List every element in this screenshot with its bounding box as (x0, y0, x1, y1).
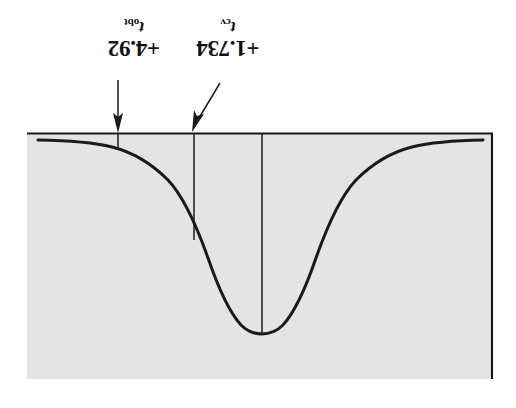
label-t-cv: +1.734 tcv (180, 18, 276, 61)
label-t-cv-symbol-text: t (231, 18, 236, 37)
arrow-t-obt (113, 80, 123, 133)
label-t-cv-subscript: cv (220, 17, 230, 29)
label-t-obt: +4.92 tobt (84, 18, 184, 61)
statistics-figure: +4.92 tobt +1.734 tcv (0, 0, 516, 408)
label-t-obt-symbol: tobt (84, 18, 184, 36)
label-t-cv-value: +1.734 (180, 36, 276, 60)
plot-background (27, 133, 493, 379)
arrow-t-cv (192, 83, 220, 132)
t-distribution-plot (0, 0, 516, 408)
label-t-cv-symbol: tcv (180, 18, 276, 36)
label-t-obt-subscript: obt (124, 17, 139, 29)
label-t-obt-symbol-text: t (139, 18, 144, 37)
label-t-obt-value: +4.92 (84, 36, 184, 60)
